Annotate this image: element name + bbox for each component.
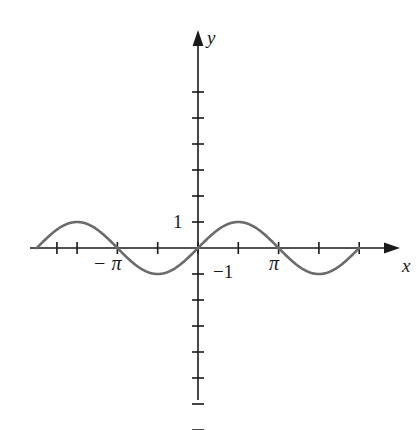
- x-axis-arrowhead: [384, 243, 400, 254]
- x-tick-label-negative-pi: − π: [93, 253, 122, 273]
- y-tick-label-negative-one: −1: [213, 262, 233, 281]
- axes-group: [30, 30, 400, 400]
- x-tick-label-pi: π: [269, 253, 279, 273]
- y-axis-arrowhead: [193, 30, 204, 46]
- sine-graph-figure: y x 1 −1 − π π: [0, 0, 418, 430]
- y-tick-label-one: 1: [173, 212, 183, 231]
- x-axis-label: x: [402, 256, 410, 275]
- plot-canvas: [0, 0, 418, 430]
- y-axis-label: y: [207, 28, 215, 47]
